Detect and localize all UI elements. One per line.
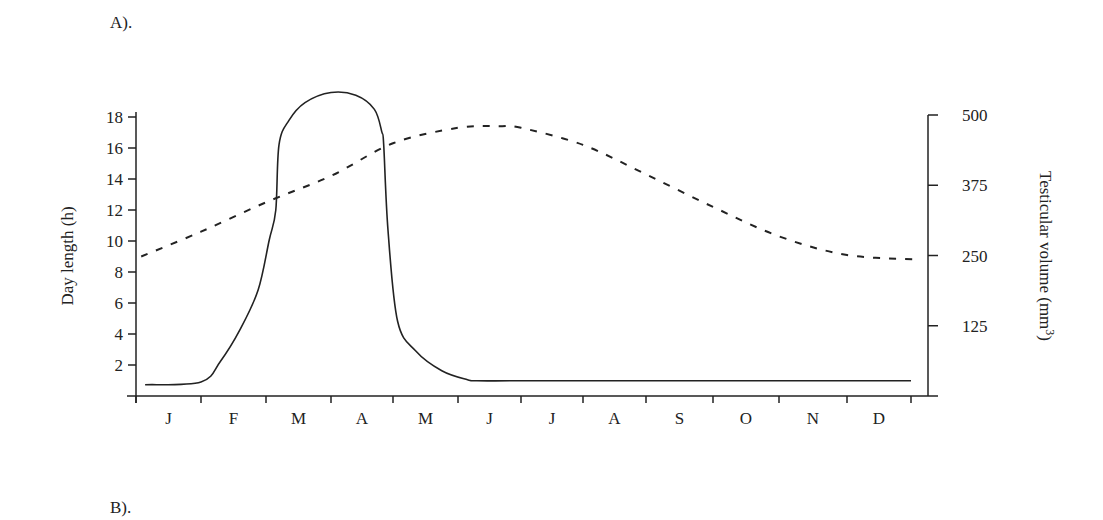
left-tick-label: 16 xyxy=(106,139,123,158)
testicular-volume-line xyxy=(145,92,911,385)
left-tick-label: 4 xyxy=(115,325,124,344)
left-tick-label: 2 xyxy=(115,356,124,375)
x-tick-label: N xyxy=(807,409,819,428)
left-axis-title: Day length (h) xyxy=(58,206,77,305)
left-tick-label: 14 xyxy=(106,170,124,189)
x-tick-label: J xyxy=(165,409,172,428)
x-tick-label: M xyxy=(418,409,433,428)
right-tick-label: 375 xyxy=(962,176,988,195)
x-tick-label: D xyxy=(873,409,885,428)
x-tick-label: A xyxy=(608,409,621,428)
right-tick-label: 125 xyxy=(962,317,988,336)
x-tick-label: M xyxy=(291,409,306,428)
right-tick-label: 250 xyxy=(962,247,988,266)
x-tick-label: A xyxy=(356,409,369,428)
line-chart: 24681012141618 125250375500 JFMAMJJASOND… xyxy=(0,0,1103,520)
left-tick-label: 12 xyxy=(106,201,123,220)
left-tick-label: 10 xyxy=(106,232,123,251)
x-tick-label: S xyxy=(675,409,684,428)
x-tick-label: O xyxy=(740,409,752,428)
chart-axes xyxy=(127,112,938,403)
x-axis-ticks: JFMAMJJASOND xyxy=(136,396,911,428)
x-tick-label: J xyxy=(486,409,493,428)
x-tick-label: F xyxy=(229,409,238,428)
left-tick-label: 8 xyxy=(115,263,124,282)
day-length-line xyxy=(141,126,920,260)
left-axis-ticks: 24681012141618 xyxy=(106,108,136,375)
right-axis-title: Testicular volume (mm3) xyxy=(1036,171,1057,341)
left-tick-label: 18 xyxy=(106,108,123,127)
right-tick-label: 500 xyxy=(962,106,988,125)
chart-series xyxy=(141,92,920,385)
left-tick-label: 6 xyxy=(115,294,124,313)
x-tick-label: J xyxy=(549,409,556,428)
right-axis-ticks: 125250375500 xyxy=(928,106,988,336)
